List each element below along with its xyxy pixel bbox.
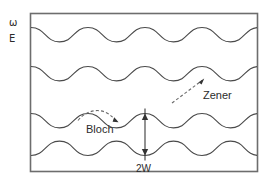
bloch-label: Bloch: [86, 123, 114, 135]
axis-label-omega: ω: [9, 17, 17, 28]
band-diagram-canvas: ω E: [0, 0, 271, 184]
axis-label-energy: E: [9, 33, 15, 44]
gap-width-label: 2W: [136, 163, 152, 174]
band-structure-figure: ω E: [0, 0, 271, 184]
zener-label: Zener: [203, 89, 232, 101]
